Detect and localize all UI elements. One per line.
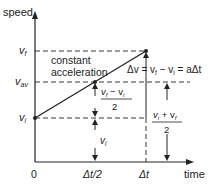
- tick-zero: 0: [31, 168, 37, 180]
- delta-v-equation: Δv = vf − vi = aΔt: [127, 64, 201, 76]
- x-axis-arrow-icon: [186, 159, 194, 165]
- tick-full: Δt: [138, 168, 150, 180]
- half-diff-numerator: vf − vi: [101, 86, 125, 98]
- avg-numerator: vi + vf: [153, 109, 178, 121]
- half-diff-denominator: 2: [112, 101, 117, 112]
- annotation-acceleration: acceleration: [51, 66, 108, 78]
- speed-time-diagram: speed time vf vav vi constant accelerati…: [0, 0, 220, 184]
- vi-height-label: vi: [100, 135, 107, 147]
- y-axis-label: speed: [3, 6, 33, 18]
- mid-point: [93, 80, 97, 84]
- tick-half: Δt/2: [82, 168, 102, 180]
- vi-label: vi: [19, 111, 27, 124]
- start-point: [33, 116, 37, 120]
- end-point: [144, 49, 148, 53]
- annotation-constant: constant: [51, 54, 91, 66]
- x-axis-label: time: [184, 168, 205, 180]
- vf-label: vf: [19, 44, 28, 57]
- avg-denominator: 2: [164, 124, 169, 135]
- vav-label: vav: [15, 75, 28, 88]
